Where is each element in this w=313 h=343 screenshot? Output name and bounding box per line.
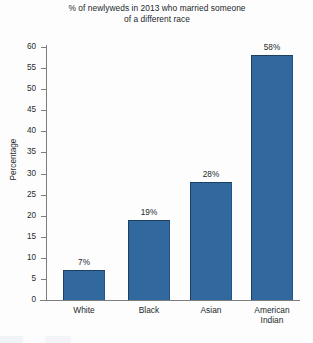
x-axis-category-label-line-1: White: [73, 305, 94, 315]
x-axis-category-label-line-1: Black: [139, 305, 159, 315]
scan-bleed-artifact: [0, 336, 313, 343]
x-axis-category-labels: WhiteBlackAsianAmericanIndian: [0, 0, 313, 343]
x-axis-category-label: AmericanIndian: [236, 305, 308, 325]
x-axis-category-label-line-2: Indian: [236, 315, 308, 325]
x-axis-category-label: White: [48, 305, 120, 315]
x-axis-category-label-line-1: Asian: [201, 305, 222, 315]
x-axis-category-label-line-1: American: [254, 305, 289, 315]
bar-chart-figure: % of newlyweds in 2013 who married someo…: [0, 0, 313, 343]
